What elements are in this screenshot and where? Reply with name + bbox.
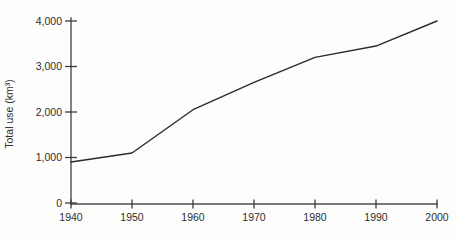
x-tick-label: 1960	[181, 211, 205, 223]
line-chart-svg: Total use (km³) 01,0002,0003,0004,000194…	[0, 0, 458, 239]
x-tick-label: 1940	[59, 211, 83, 223]
x-tick-label: 1990	[364, 211, 388, 223]
x-tick-label: 2000	[425, 211, 449, 223]
y-tick-label: 3,000	[36, 60, 62, 72]
y-axis-title: Total use (km³)	[3, 79, 15, 148]
x-tick-label: 1980	[303, 211, 327, 223]
total-use-series-line	[71, 21, 437, 162]
x-tick-label: 1970	[242, 211, 266, 223]
y-tick-label: 1,000	[36, 151, 62, 163]
total-water-use-line-chart: Total use (km³) 01,0002,0003,0004,000194…	[0, 0, 458, 239]
y-tick-label: 2,000	[36, 106, 62, 118]
y-tick-label: 0	[56, 197, 62, 209]
y-tick-label: 4,000	[36, 15, 62, 27]
x-tick-label: 1950	[120, 211, 144, 223]
